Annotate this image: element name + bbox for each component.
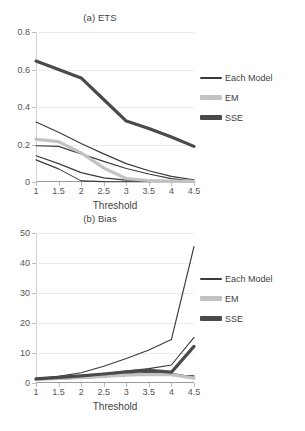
x-tick-label: 3 [124,387,129,397]
x-tick-label: 1.5 [52,186,65,196]
x-tick-label: 4.5 [188,387,201,397]
plot-area-ets: 00.20.40.60.8 11.522.533.544.5 Threshold [36,32,194,182]
legend-label-sse: SSE [225,113,243,123]
series-line-em-4 [36,139,194,181]
chart-panel-ets: (a) ETS 00.20.40.60.8 11.522.533.544.5 T… [0,12,305,212]
legend-item-each-model: Each Model [200,72,300,83]
x-axis-title-a: Threshold [93,200,137,211]
x-tick-label: 1.5 [52,387,65,397]
x-tick-label: 1 [33,186,38,196]
figure-container: (a) ETS 00.20.40.60.8 11.522.533.544.5 T… [0,0,305,431]
x-tick-label: 1 [33,387,38,397]
x-tick-label: 2.5 [97,186,110,196]
series-line-each-model-0 [36,122,194,180]
legend-item-sse: SSE [200,313,300,324]
legend-item-em: EM [200,293,300,304]
series-line-each-model-2 [36,156,194,182]
data-series-ets [36,32,194,182]
x-axis-title-b: Threshold [93,401,137,412]
legend-swatch-em-icon [200,296,222,301]
y-tick-label: 0 [25,378,30,388]
x-tick-label: 4 [169,387,174,397]
series-line-each-model-0 [36,247,194,379]
x-tick-label: 3.5 [143,186,156,196]
legend-swatch-each-model-icon [200,278,222,280]
legend-item-em: EM [200,92,300,103]
y-tick-label: 50 [20,228,30,238]
x-tick-label: 2 [79,387,84,397]
y-tick-label: 20 [20,318,30,328]
legend-item-each-model: Each Model [200,273,300,284]
y-tick-label: 0.8 [17,27,30,37]
y-tick-label: 0.2 [17,140,30,150]
y-tick-label: 30 [20,288,30,298]
legend-bias: Each Model EM SSE [200,273,300,333]
legend-swatch-each-model-icon [200,77,222,79]
chart-panel-bias: (b) Bias 01020304050 11.522.533.544.5 Th… [0,213,305,413]
x-tick-label: 3.5 [143,387,156,397]
series-line-sse-5 [36,61,194,146]
chart-title-b: (b) Bias [0,213,200,224]
legend-swatch-sse-icon [200,316,222,321]
x-tick-label: 2.5 [97,387,110,397]
legend-label-sse: SSE [225,314,243,324]
legend-label-em: EM [225,93,239,103]
y-tick-label: 10 [20,348,30,358]
data-series-bias [36,233,194,383]
legend-swatch-em-icon [200,95,222,100]
y-tick-label: 0.4 [17,102,30,112]
legend-ets: Each Model EM SSE [200,72,300,132]
y-tick-label: 0 [25,177,30,187]
legend-label-em: EM [225,294,239,304]
y-tick-label: 40 [20,258,30,268]
legend-label-each-model: Each Model [225,274,273,284]
legend-swatch-sse-icon [200,115,222,120]
plot-area-bias: 01020304050 11.522.533.544.5 Threshold [36,233,194,383]
y-tick-label: 0.6 [17,65,30,75]
x-tick-label: 2 [79,186,84,196]
chart-title-a: (a) ETS [0,12,200,23]
x-tick-label: 4 [169,186,174,196]
x-tick-label: 3 [124,186,129,196]
legend-item-sse: SSE [200,112,300,123]
x-tick-label: 4.5 [188,186,201,196]
legend-label-each-model: Each Model [225,73,273,83]
